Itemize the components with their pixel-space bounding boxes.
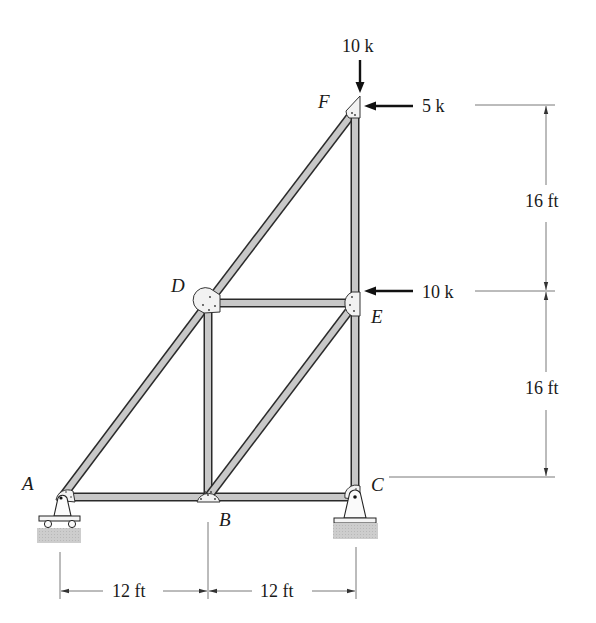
load-label-e-horizontal: 10 k [422,282,454,302]
member-be [208,303,355,497]
load-e-horizontal: 10 k [364,282,454,302]
node-label-f: F [317,91,330,112]
load-f-vertical: 10 k [342,36,374,93]
dim-label-f-e: 16 ft [525,191,559,211]
load-label-f-horizontal: 5 k [422,96,445,116]
member-ad [62,303,208,497]
truss-diagram: A B C D E F 10 k 5 k 10 k 16 ft 16 ft [0,0,596,623]
member-df [208,110,355,303]
dim-label-b-c: 12 ft [260,581,294,601]
node-label-b: B [219,509,231,530]
node-label-c: C [371,474,384,495]
gusset-f [346,96,360,118]
gusset-e [345,292,360,316]
dim-label-e-c: 16 ft [525,378,559,398]
load-label-f-vertical: 10 k [342,36,374,56]
horizontal-dimensions: 12 ft 12 ft [60,522,356,601]
dim-label-a-b: 12 ft [112,581,146,601]
vertical-dimensions: 16 ft 16 ft [389,105,559,477]
load-f-horizontal: 5 k [364,96,445,116]
node-label-e: E [370,306,383,327]
node-label-a: A [20,473,34,494]
node-label-d: D [170,275,185,296]
